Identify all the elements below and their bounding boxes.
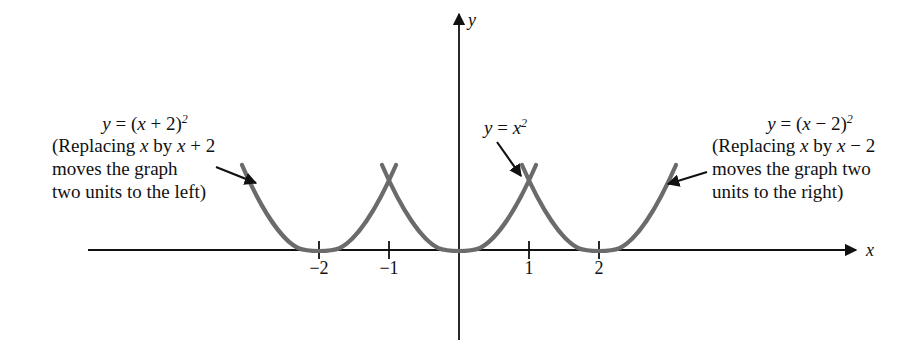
equation-left-parabola: y = (x + 2)2 [52, 112, 238, 135]
annotation-left-line1: (Replacing x by x + 2 [52, 135, 238, 158]
parabola-translation-figure: y x −2 −1 1 2 y = (x + 2)2 (Replacing x … [0, 0, 920, 348]
curve-right-parabola [522, 165, 676, 251]
annotation-left-line3: two units to the left) [52, 181, 238, 204]
annotation-left: y = (x + 2)2 (Replacing x by x + 2 moves… [52, 112, 238, 204]
annotation-right-line2: moves the graph two [712, 158, 908, 181]
annotation-right-line3: units to the right) [712, 181, 908, 204]
annotation-center: y = x2 [484, 116, 527, 139]
annotation-right: y = (x − 2)2 (Replacing x by x − 2 moves… [712, 112, 908, 204]
tick-label-neg1: −1 [369, 258, 409, 279]
equation-right-equals: = [780, 113, 791, 134]
y-axis-label: y [468, 10, 476, 31]
equation-right-lhs: y [767, 113, 775, 134]
equation-right-base: (x − 2) [796, 113, 847, 134]
leader-arrow-center [497, 142, 521, 176]
curve-left-parabola [242, 165, 396, 251]
equation-right-exponent: 2 [847, 112, 853, 126]
x-axis-label: x [866, 240, 874, 261]
equation-center-exponent: 2 [521, 116, 527, 130]
equation-right-parabola: y = (x − 2)2 [712, 112, 908, 135]
annotation-right-line1: (Replacing x by x − 2 [712, 135, 908, 158]
equation-left-lhs: y [102, 113, 110, 134]
equation-center-parabola: y = x2 [484, 117, 527, 138]
equation-center-base: x [513, 117, 521, 138]
tick-label-pos1: 1 [509, 258, 549, 279]
equation-left-exponent: 2 [182, 112, 188, 126]
annotation-left-line2: moves the graph [52, 158, 238, 181]
equation-left-equals: = [115, 113, 126, 134]
equation-center-lhs: y [484, 117, 492, 138]
equation-left-base: (x + 2) [131, 113, 182, 134]
equation-center-equals: = [497, 117, 508, 138]
tick-label-neg2: −2 [299, 258, 339, 279]
tick-label-pos2: 2 [579, 258, 619, 279]
